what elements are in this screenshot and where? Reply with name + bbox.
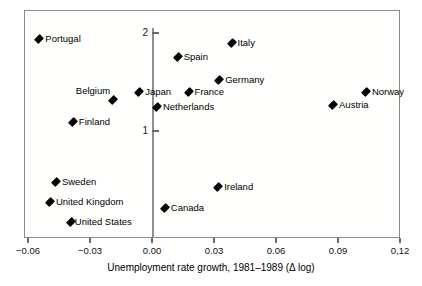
data-point-label: Austria bbox=[339, 100, 369, 110]
y-tick-mark bbox=[152, 130, 159, 131]
data-point-label: Norway bbox=[372, 87, 404, 97]
x-tick-mark bbox=[399, 238, 400, 243]
scatter-chart: 21 −0.06−0.030.000.030.060.090,12 Portug… bbox=[0, 0, 422, 286]
x-tick-label: 0,12 bbox=[378, 245, 422, 256]
data-point-label: United States bbox=[75, 217, 132, 227]
data-point-label: Spain bbox=[184, 52, 208, 62]
data-point-label: Finland bbox=[79, 117, 110, 127]
x-axis-title: Unemployment rate growth, 1981–1989 (Δ l… bbox=[0, 262, 422, 274]
x-tick-label: 0.03 bbox=[192, 245, 236, 256]
x-tick-mark bbox=[151, 238, 152, 243]
data-point-label: Belgium bbox=[76, 86, 110, 96]
x-tick-label: 0.00 bbox=[130, 245, 174, 256]
y-axis-line bbox=[152, 28, 154, 238]
data-point-label: Ireland bbox=[224, 182, 253, 192]
data-point-label: United Kingdom bbox=[56, 197, 124, 207]
x-tick-mark bbox=[275, 238, 276, 243]
data-point-label: Canada bbox=[171, 203, 204, 213]
y-tick-label: 1 bbox=[128, 126, 148, 136]
x-tick-mark bbox=[337, 238, 338, 243]
data-point-label: Sweden bbox=[62, 177, 96, 187]
y-tick-mark bbox=[152, 32, 159, 33]
data-point-label: Portugal bbox=[45, 34, 80, 44]
x-tick-label: 0.06 bbox=[254, 245, 298, 256]
data-point-label: Italy bbox=[238, 38, 255, 48]
x-tick-mark bbox=[89, 238, 90, 243]
x-tick-label: −0.06 bbox=[6, 245, 50, 256]
data-point-label: France bbox=[195, 87, 225, 97]
x-tick-label: 0.09 bbox=[316, 245, 360, 256]
x-tick-label: −0.03 bbox=[68, 245, 112, 256]
x-tick-mark bbox=[213, 238, 214, 243]
data-point-label: Japan bbox=[145, 87, 171, 97]
x-tick-mark bbox=[27, 238, 28, 243]
y-tick-label: 2 bbox=[128, 28, 148, 38]
data-point-label: Netherlands bbox=[163, 102, 214, 112]
data-point-label: Germany bbox=[225, 75, 264, 85]
